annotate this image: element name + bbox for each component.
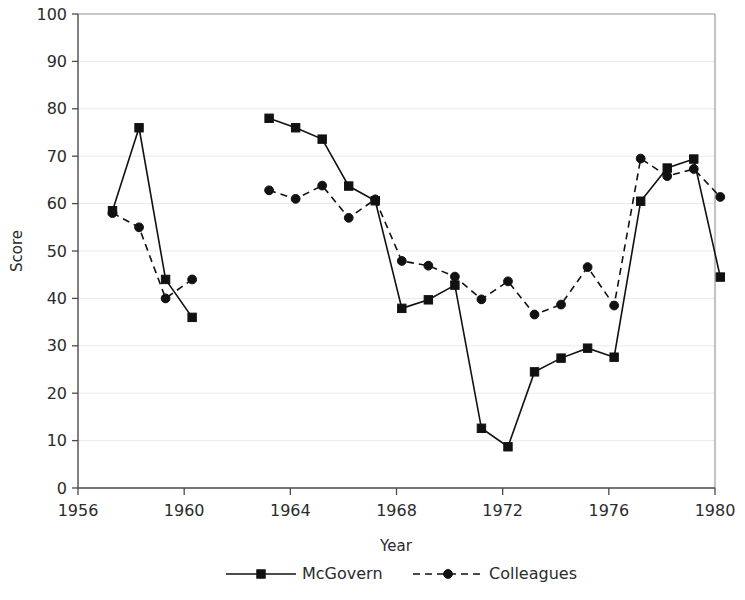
data-point-circle <box>108 209 117 218</box>
data-point-square <box>504 443 512 451</box>
y-tick-label: 0 <box>57 479 67 498</box>
legend-marker-square <box>257 570 265 578</box>
legend-label: McGovern <box>302 564 383 583</box>
data-point-square <box>663 164 671 172</box>
y-tick-label: 90 <box>47 52 67 71</box>
data-point-square <box>161 275 169 283</box>
data-point-square <box>188 313 196 321</box>
data-point-circle <box>188 275 197 284</box>
data-point-circle <box>424 261 433 270</box>
y-tick-label: 10 <box>47 431 67 450</box>
y-tick-label: 40 <box>47 289 67 308</box>
x-tick-label: 1960 <box>164 501 205 520</box>
legend-marker-circle <box>444 570 453 579</box>
data-point-square <box>690 155 698 163</box>
data-point-square <box>530 368 538 376</box>
x-tick-label: 1976 <box>588 501 629 520</box>
y-tick-label: 100 <box>36 5 67 24</box>
data-point-square <box>345 182 353 190</box>
data-point-circle <box>135 223 144 232</box>
data-point-circle <box>663 172 672 181</box>
data-point-square <box>451 281 459 289</box>
chart-background <box>0 0 745 600</box>
data-point-circle <box>530 310 539 319</box>
x-axis-title: Year <box>379 537 413 555</box>
data-point-square <box>291 124 299 132</box>
data-point-circle <box>504 277 513 286</box>
data-point-square <box>557 354 565 362</box>
y-tick-label: 70 <box>47 147 67 166</box>
data-point-square <box>318 135 326 143</box>
data-point-circle <box>371 195 380 204</box>
x-tick-label: 1956 <box>58 501 99 520</box>
data-point-square <box>716 273 724 281</box>
data-point-circle <box>557 300 566 309</box>
data-point-circle <box>344 213 353 222</box>
y-tick-label: 60 <box>47 194 67 213</box>
x-tick-label: 1972 <box>482 501 523 520</box>
data-point-circle <box>583 263 592 272</box>
data-point-circle <box>450 272 459 281</box>
y-tick-label: 50 <box>47 242 67 261</box>
data-point-square <box>636 197 644 205</box>
data-point-square <box>398 304 406 312</box>
data-point-square <box>610 353 618 361</box>
x-tick-label: 1968 <box>376 501 417 520</box>
data-point-circle <box>161 294 170 303</box>
data-point-square <box>583 344 591 352</box>
y-tick-label: 80 <box>47 99 67 118</box>
data-point-circle <box>636 154 645 163</box>
data-point-circle <box>397 257 406 266</box>
data-point-circle <box>689 165 698 174</box>
score-by-year-line-chart: 0102030405060708090100 19561960196419681… <box>0 0 745 600</box>
data-point-square <box>265 114 273 122</box>
y-tick-label: 20 <box>47 384 67 403</box>
data-point-square <box>477 424 485 432</box>
x-tick-label: 1980 <box>695 501 736 520</box>
y-tick-label: 30 <box>47 336 67 355</box>
legend-label: Colleagues <box>489 564 577 583</box>
y-axis-title: Score <box>8 230 26 272</box>
data-point-circle <box>610 301 619 310</box>
data-point-square <box>424 296 432 304</box>
data-point-square <box>135 124 143 132</box>
data-point-circle <box>318 181 327 190</box>
data-point-circle <box>716 193 725 202</box>
data-point-circle <box>265 186 274 195</box>
x-tick-label: 1964 <box>270 501 311 520</box>
chart-container: 0102030405060708090100 19561960196419681… <box>0 0 745 600</box>
data-point-circle <box>291 194 300 203</box>
data-point-circle <box>477 295 486 304</box>
